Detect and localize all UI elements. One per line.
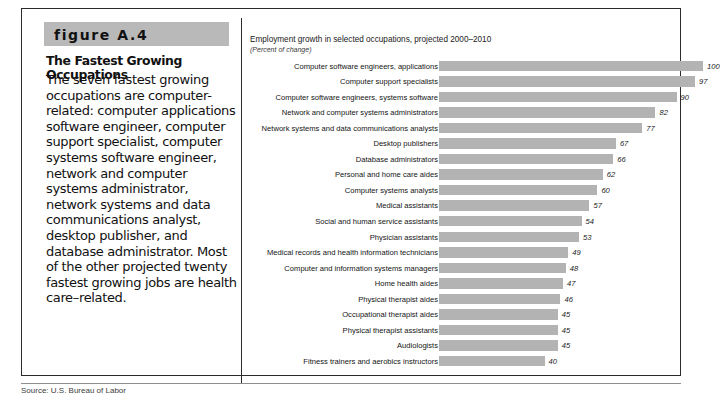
bar-category-label: Medical assistants <box>376 201 438 210</box>
bar-track: 48 <box>439 263 703 274</box>
bar-category-label: Personal and home care aides <box>335 170 438 179</box>
bar-chart-plot-area: Computer software engineers, application… <box>244 59 703 379</box>
bar-row: Medical assistants57 <box>244 199 703 215</box>
bar-fill <box>439 154 613 165</box>
bar-track: 54 <box>439 216 703 227</box>
bar-row: Network and computer systems administrat… <box>244 106 703 122</box>
bar-fill <box>439 185 597 196</box>
bar-track: 53 <box>439 232 703 243</box>
bar-row: Computer systems analysts60 <box>244 183 703 199</box>
bar-fill <box>439 76 695 87</box>
bar-track: 45 <box>439 340 703 351</box>
bar-track: 90 <box>439 92 703 103</box>
bar-category-label: Fitness trainers and aerobics instructor… <box>303 357 438 366</box>
bar-row: Computer software engineers, systems sof… <box>244 90 703 106</box>
bar-fill <box>439 107 655 118</box>
bar-row: Occupational therapist aides45 <box>244 308 703 324</box>
bar-category-label: Physical therapist aides <box>358 295 438 304</box>
bar-fill <box>439 232 579 243</box>
bar-row: Computer support specialists97 <box>244 75 703 91</box>
bar-track: 66 <box>439 154 703 165</box>
bar-fill <box>439 263 566 274</box>
bar-category-label: Medical records and health information t… <box>267 248 438 257</box>
bar-value-label: 49 <box>572 248 580 257</box>
bar-value-label: 45 <box>562 341 570 350</box>
bar-category-label: Computer systems analysts <box>345 186 438 195</box>
bar-track: 45 <box>439 325 703 336</box>
bar-category-label: Home health aides <box>375 279 438 288</box>
bar-fill <box>439 123 642 134</box>
figure-source-caption: Source: U.S. Bureau of Labor <box>21 386 126 395</box>
bar-value-label: 45 <box>562 326 570 335</box>
bar-row: Computer software engineers, application… <box>244 59 703 75</box>
bar-row: Physical therapist assistants45 <box>244 323 703 339</box>
caption-divider <box>21 383 681 384</box>
bar-track: 67 <box>439 138 703 149</box>
bar-value-label: 47 <box>567 279 575 288</box>
bar-fill <box>439 61 703 72</box>
bar-value-label: 40 <box>549 357 557 366</box>
bar-row: Audiologists45 <box>244 339 703 355</box>
bar-track: 100 <box>439 61 703 72</box>
bar-track: 57 <box>439 200 703 211</box>
bar-fill <box>439 294 560 305</box>
figure-frame: figure A.4 The Fastest Growing Occupatio… <box>21 8 681 376</box>
bar-value-label: 66 <box>617 155 625 164</box>
bar-category-label: Desktop publishers <box>373 139 438 148</box>
bar-row: Physician assistants53 <box>244 230 703 246</box>
bar-category-label: Network systems and data communications … <box>262 124 438 133</box>
bar-category-label: Occupational therapist aides <box>342 310 438 319</box>
bar-category-label: Computer support specialists <box>340 77 438 86</box>
bar-fill <box>439 325 558 336</box>
bar-row: Database administrators66 <box>244 152 703 168</box>
chart-title: Employment growth in selected occupation… <box>250 35 491 44</box>
bar-value-label: 97 <box>699 77 707 86</box>
bar-track: 40 <box>439 356 703 367</box>
bar-track: 97 <box>439 76 703 87</box>
bar-fill <box>439 138 616 149</box>
bar-fill <box>439 247 568 258</box>
bar-row: Network systems and data communications … <box>244 121 703 137</box>
bar-track: 82 <box>439 107 703 118</box>
bar-category-label: Database administrators <box>356 155 438 164</box>
bar-value-label: 57 <box>593 201 601 210</box>
bar-category-label: Audiologists <box>397 341 438 350</box>
bar-category-label: Network and computer systems administrat… <box>282 108 438 117</box>
bar-track: 62 <box>439 169 703 180</box>
bar-row: Physical therapist aides46 <box>244 292 703 308</box>
bar-row: Medical records and health information t… <box>244 246 703 262</box>
bar-category-label: Physical therapist assistants <box>343 326 438 335</box>
bar-value-label: 53 <box>583 233 591 242</box>
bar-category-label: Social and human service assistants <box>315 217 438 226</box>
bar-fill <box>439 340 558 351</box>
chart-subtitle: (Percent of change) <box>250 46 311 53</box>
bar-track: 49 <box>439 247 703 258</box>
figure-body-text: The seven fastest growing occupations ar… <box>46 72 238 306</box>
bar-value-label: 67 <box>620 139 628 148</box>
bar-category-label: Physician assistants <box>370 233 438 242</box>
bar-value-label: 82 <box>659 108 667 117</box>
bar-fill <box>439 200 589 211</box>
bar-fill <box>439 309 558 320</box>
panel-divider <box>241 18 242 384</box>
bar-row: Desktop publishers67 <box>244 137 703 153</box>
bar-row: Fitness trainers and aerobics instructor… <box>244 354 703 370</box>
bar-fill <box>439 169 603 180</box>
bar-fill <box>439 356 545 367</box>
bar-value-label: 60 <box>601 186 609 195</box>
bar-row: Home health aides47 <box>244 277 703 293</box>
bar-value-label: 45 <box>562 310 570 319</box>
bar-row: Social and human service assistants54 <box>244 214 703 230</box>
bar-category-label: Computer software engineers, application… <box>294 62 438 71</box>
bar-value-label: 54 <box>586 217 594 226</box>
bar-value-label: 62 <box>607 170 615 179</box>
chart-panel: Employment growth in selected occupation… <box>244 18 703 384</box>
bar-fill <box>439 216 582 227</box>
bar-track: 47 <box>439 278 703 289</box>
bar-value-label: 46 <box>564 295 572 304</box>
bar-value-label: 77 <box>646 124 654 133</box>
bar-value-label: 100 <box>707 62 720 71</box>
bar-fill <box>439 92 677 103</box>
figure-description-panel: figure A.4 The Fastest Growing Occupatio… <box>44 18 240 384</box>
bar-track: 46 <box>439 294 703 305</box>
